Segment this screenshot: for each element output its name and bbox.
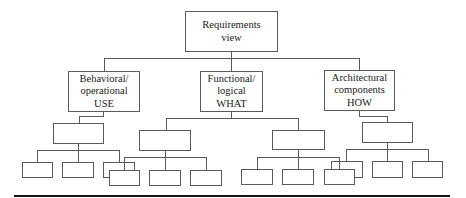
node-label-line: Behavioral/ <box>80 73 129 86</box>
connector <box>359 58 360 70</box>
node-label-line: HOW <box>347 97 372 110</box>
connector <box>346 149 347 161</box>
requirements-hierarchy-diagram: Requirements view Behavioral/ operationa… <box>0 0 466 198</box>
connector <box>104 58 360 59</box>
connector <box>298 150 299 157</box>
node-label-line: logical <box>217 85 246 98</box>
functional-leaf-node <box>241 169 273 185</box>
functional-leaf-node <box>324 169 355 185</box>
node-label-line: operational <box>80 85 127 98</box>
connector <box>104 58 105 71</box>
functional-subnode-left <box>139 130 191 151</box>
connector <box>79 116 80 123</box>
functional-subnode-right <box>272 130 325 150</box>
node-label-line: Requirements <box>202 19 260 32</box>
connector <box>166 118 299 119</box>
functional-leaf-node <box>149 170 181 186</box>
behavioral-subnode <box>53 123 104 144</box>
connector <box>124 157 125 170</box>
architectural-subnode <box>362 122 413 143</box>
functional-leaf-node <box>109 170 140 186</box>
connector <box>166 118 167 130</box>
node-label-line: view <box>221 32 241 45</box>
node-architectural-components-how: Architectural components HOW <box>324 70 395 111</box>
connector <box>298 157 299 169</box>
node-functional-logical-what: Functional/ logical WHAT <box>200 71 263 112</box>
connector <box>257 157 258 169</box>
connector <box>298 118 299 130</box>
connector <box>78 150 79 162</box>
functional-leaf-node <box>282 169 314 185</box>
architectural-leaf-node <box>372 161 403 178</box>
architectural-leaf-node <box>412 161 443 178</box>
node-requirements-view: Requirements view <box>185 11 278 52</box>
connector <box>119 150 120 162</box>
connector <box>79 116 104 117</box>
behavioral-leaf-node <box>62 162 94 178</box>
connector <box>165 157 166 170</box>
behavioral-leaf-node <box>22 162 53 178</box>
connector <box>231 58 232 71</box>
node-label-line: components <box>334 84 385 97</box>
node-label-line: USE <box>94 98 114 111</box>
node-label-line: Architectural <box>332 72 387 85</box>
node-behavioral-operational-use: Behavioral/ operational USE <box>68 71 140 112</box>
bottom-rule-divider <box>14 195 450 197</box>
connector <box>428 149 429 161</box>
functional-leaf-node <box>190 170 222 186</box>
connector <box>206 157 207 170</box>
connector <box>339 157 340 169</box>
connector <box>387 149 388 161</box>
connector <box>37 150 38 162</box>
node-label-line: Functional/ <box>208 73 256 86</box>
connector <box>359 116 388 117</box>
node-label-line: WHAT <box>216 98 246 111</box>
